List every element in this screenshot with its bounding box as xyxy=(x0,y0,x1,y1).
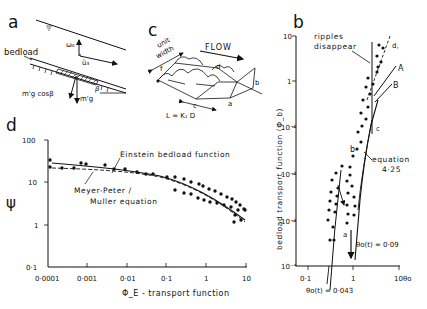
b-ytick-10: 10 xyxy=(283,33,292,41)
d-ytick-0.1: 0·1 xyxy=(26,264,37,272)
omega-label: ω₀ xyxy=(66,41,75,49)
d-ytick-1: 1 xyxy=(34,222,38,230)
mpm-curve xyxy=(52,168,245,222)
b-ytick-0.0001: 10⁻⁴ xyxy=(281,263,297,271)
b-xtick-1: 1 xyxy=(351,275,355,283)
theta-09-label: θo(t) = 0·09 xyxy=(356,241,399,249)
flow-arrow-icon xyxy=(200,51,243,59)
ripples-label-1: ripples xyxy=(314,32,344,41)
normal-force-label: m'g cosβ xyxy=(22,90,54,98)
normal-force-arrow-icon xyxy=(70,76,76,98)
a-label: a xyxy=(343,231,347,239)
point-c-label: c xyxy=(193,102,197,110)
b-label: b xyxy=(350,145,355,154)
bedload-label: bedload xyxy=(4,47,38,57)
b-ytick-0.01: 10⁻² xyxy=(281,171,297,179)
d-label: d, xyxy=(392,42,399,50)
b-xtick-10: 10θo xyxy=(394,275,411,283)
equation-label-1: equation xyxy=(372,155,410,164)
water-level-icon xyxy=(46,26,52,30)
length-label: L = K₁ D xyxy=(166,112,195,120)
b-xtick-0.1: 0·1 xyxy=(300,275,311,283)
psi-axis-label: ψ xyxy=(6,194,16,212)
point-b-label: b xyxy=(255,79,260,87)
d-xtick-3: 0·1 xyxy=(161,275,172,283)
point-e-icon xyxy=(156,79,159,82)
theta-043-label: θo(t) = 0·043 xyxy=(306,287,353,295)
b-ytick-0.001: 10⁻³ xyxy=(281,218,297,226)
c-label: c xyxy=(376,125,380,133)
d-xlabel: Φ_E - transport function xyxy=(122,289,230,298)
figure-canvas: a bedload ω₀ ū₃ m'g cosβ m'g xyxy=(0,0,427,309)
d-xtick-1: 0·001 xyxy=(77,275,97,283)
b-ytick-0.1: 10⁻¹ xyxy=(281,124,297,132)
velocity-label: ū₃ xyxy=(82,59,89,67)
point-a-label: a xyxy=(228,100,232,108)
panel-b-letter: b xyxy=(293,12,304,32)
equation-label-2: 4·25 xyxy=(382,165,401,174)
A-label: A xyxy=(398,64,404,73)
d-ytick-10: 10 xyxy=(28,179,37,187)
equation-425-curve xyxy=(355,100,378,260)
flow-label: FLOW xyxy=(205,43,232,52)
b-data-points xyxy=(326,43,384,241)
point-f-label: f xyxy=(160,65,163,73)
point-d-label: d xyxy=(216,63,220,71)
einstein-legend: Einstein bedload function xyxy=(120,150,230,159)
panel-d-letter: d xyxy=(6,115,17,135)
b-ytick-1: 1 xyxy=(287,78,291,86)
bed-line xyxy=(30,64,126,93)
ripples-label-2: disappear xyxy=(314,42,357,51)
panel-c: c unitwidth FLOW f d b c a L = K₁ D xyxy=(148,20,262,120)
beta-label: β xyxy=(95,85,100,93)
mpm-legend-line2: Muller equation xyxy=(90,197,158,206)
line-B xyxy=(375,84,392,102)
panel-b: b bedload transport function (Φ_b) 10 1 … xyxy=(275,12,411,295)
length-arrow-icon xyxy=(183,102,216,110)
panel-c-letter: c xyxy=(148,20,157,40)
control-volume-diagram xyxy=(158,57,262,99)
d-xtick-0: 0·0001 xyxy=(35,275,60,283)
B-label: B xyxy=(393,81,399,90)
theta-043-leader xyxy=(327,266,329,284)
weight-label: m'g xyxy=(80,95,93,103)
d-ytick-100: 100 xyxy=(22,137,35,145)
d-xtick-4: 1 xyxy=(204,275,208,283)
d-xtick-2: 0·01 xyxy=(120,275,136,283)
panel-a: a bedload ω₀ ū₃ m'g cosβ m'g xyxy=(4,12,126,103)
panel-a-letter: a xyxy=(8,12,18,32)
mpm-legend-line1: Meyer-Peter / xyxy=(74,186,132,195)
water-surface-line xyxy=(36,20,126,50)
panel-d: d ψ 100 10 1 0·1 0·0001 0·001 0·01 0·1 1… xyxy=(6,115,251,298)
d-xtick-5: 10 xyxy=(242,275,251,283)
ripples-leader xyxy=(352,51,370,63)
